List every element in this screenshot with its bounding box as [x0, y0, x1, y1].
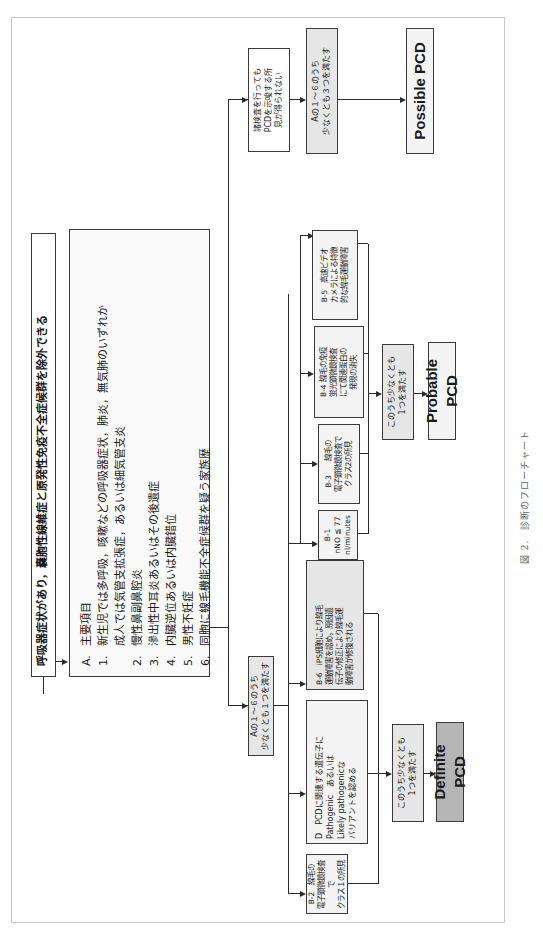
title-link: [43, 677, 44, 694]
connector: [274, 705, 288, 706]
criteria-item: 2. 慢性鼻副鼻腔炎: [129, 240, 146, 666]
definite-pcd-box: Definite PCD: [436, 722, 464, 822]
probable-pcd-box: Probable PCD: [428, 342, 456, 440]
b3-box: B-3 線毛の 電子顕微鏡検査で クラス2の所見: [318, 424, 360, 504]
flowchart-canvas: 呼吸器症状があり，嚢胞性線維症と原発性免疫不全症候群を除外できる A. 主要項目…: [0, 0, 543, 934]
b6-box: B-6 iPS細胞により線毛 運動障害を認め，原因遺 伝子の修正により線毛運 動…: [306, 560, 364, 690]
criteria-item: 5. 男性不妊症: [180, 240, 197, 666]
a-at-least-one-box: Aの１～６のうち 少なくとも１つを満たす: [248, 656, 274, 756]
probable-at-least-one-box: このうち少なくとも 1つを満たす: [382, 344, 414, 440]
definite-at-least-one-box: このうち少なくとも 1つを満たす: [392, 724, 424, 822]
title-box: 呼吸器症状があり，嚢胞性線維症と原発性免疫不全症候群を除外できる: [31, 233, 56, 677]
d-box: D PCDに関連する遺伝子に Pathogenic あるいは Likely pa…: [306, 700, 368, 844]
connector: [358, 243, 368, 244]
connector: [348, 883, 378, 884]
b5-box: B-5 高速ビデオ カメラによる特徴 的な線毛運動障害: [312, 230, 358, 320]
criteria-item-sub: 成人では気管支拡張症，あるいは細気管支炎: [112, 240, 129, 666]
criteria-item: 4. 内臓逆位あるいは内臓錯位: [163, 240, 180, 666]
connector: [210, 627, 228, 628]
probable-bus: [300, 236, 301, 544]
branch-bus: [228, 100, 229, 706]
criteria-item: 3. 滲出性中耳炎あるいはその後遺症: [146, 240, 163, 666]
figure-caption: 図 2. 診断のフローチャート: [518, 430, 531, 564]
merge-bus: [378, 614, 379, 884]
criteria-list-box: A. 主要項目 1. 新生児では多呼吸，咳嗽などの呼吸器症状，肺炎，無気肺のいず…: [69, 229, 210, 677]
connector: [358, 533, 368, 534]
criteria-item: 1. 新生児では多呼吸，咳嗽などの呼吸器症状，肺炎，無気肺のいずれか: [95, 240, 112, 666]
criteria-item: 6. 同胞に線毛機能不全症候群を疑う家族歴: [197, 240, 214, 666]
connector: [360, 453, 368, 454]
criteria-header: A. 主要項目: [78, 240, 95, 666]
arrow-icon: [62, 659, 68, 665]
possible-pcd-box: Possible PCD: [406, 28, 434, 154]
b2-box: B-2 線毛の 電子顕微鏡検査で クラス１の所見: [306, 854, 348, 914]
no-findings-box: 諸検査を行っても PCDを示唆する所 見が得られない: [248, 48, 290, 152]
connector: [364, 353, 368, 354]
test-bus: [288, 294, 289, 894]
title-text: 呼吸器症状があり，嚢胞性線維症と原発性免疫不全症候群を除外できる: [36, 315, 51, 666]
b4-box: B-4 線毛の免疫 蛍光顕微鏡検査 にて関連蛋白の 発現の消失: [314, 326, 364, 418]
connector: [368, 773, 378, 774]
probable-merge-bus: [368, 244, 369, 534]
b1-box: B-1 nNO ≦ 77 nl/minutes: [318, 510, 358, 560]
a-at-least-three-box: Aの１～６のうち 少なくとも３つを満たす: [306, 28, 338, 154]
connector: [338, 99, 402, 100]
connector: [364, 613, 378, 614]
